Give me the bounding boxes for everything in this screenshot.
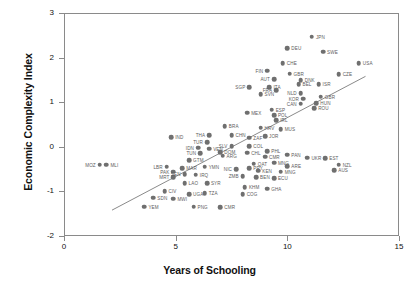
data-point-label: PHL: [271, 149, 280, 154]
data-point: [272, 176, 277, 181]
x-tick-label: 0: [52, 242, 76, 251]
data-point-label: YEM: [148, 204, 158, 209]
data-point-label: AUT: [260, 77, 270, 82]
y-tick-mark: [59, 147, 64, 148]
data-point: [202, 165, 207, 170]
data-point: [319, 95, 324, 100]
data-point-label: EST: [329, 156, 338, 161]
data-point-label: CMR: [269, 154, 280, 159]
x-tick-mark: [176, 236, 177, 241]
data-point: [312, 106, 317, 111]
data-point: [336, 72, 341, 77]
data-point: [198, 151, 203, 156]
data-point: [180, 166, 185, 171]
data-point: [220, 153, 225, 158]
data-point: [196, 145, 201, 150]
data-point-label: ARE: [291, 164, 301, 169]
data-point: [265, 149, 270, 154]
data-point-label: CAN: [287, 101, 297, 106]
data-point-label: CHL: [251, 150, 261, 155]
data-point-label: MRT: [159, 175, 169, 180]
data-point-label: UKR: [311, 155, 321, 160]
data-point-label: USA: [363, 60, 373, 65]
data-point-label: ECU: [278, 176, 288, 181]
data-point: [256, 169, 261, 174]
data-point: [321, 50, 326, 55]
data-point-label: GBR: [325, 94, 335, 99]
y-tick-mark: [59, 58, 64, 59]
data-point-label: BEL: [303, 82, 312, 87]
data-point: [245, 111, 250, 116]
data-point: [314, 101, 319, 106]
data-point-label: HRV: [265, 125, 275, 130]
data-point: [171, 196, 176, 201]
data-point: [97, 162, 102, 167]
data-point-label: JOR: [269, 134, 279, 139]
y-tick-label: 0: [30, 142, 54, 151]
data-point: [285, 164, 290, 169]
data-point-label: PAK: [160, 169, 169, 174]
y-tick-label: -1: [30, 186, 54, 195]
data-point-label: TUN: [186, 151, 196, 156]
data-point: [187, 158, 192, 163]
data-point: [191, 204, 196, 209]
data-point: [247, 136, 252, 141]
data-point: [104, 162, 109, 167]
data-point-label: CIV: [169, 189, 177, 194]
data-point: [240, 174, 245, 179]
data-point-label: MLI: [110, 162, 118, 167]
x-tick-mark: [64, 236, 65, 241]
x-tick-label: 10: [275, 242, 299, 251]
data-point: [205, 140, 210, 145]
data-point: [243, 185, 248, 190]
data-point-label: IRL: [280, 118, 287, 123]
data-point-label: GHA: [271, 186, 281, 191]
data-point-label: MEX: [251, 110, 261, 115]
data-point: [272, 161, 277, 166]
data-point-label: MUS: [285, 126, 296, 131]
data-point: [193, 173, 198, 178]
data-point: [323, 156, 328, 161]
data-point: [263, 134, 268, 139]
y-tick-label: 2: [30, 53, 54, 62]
data-point-label: PAN: [291, 152, 300, 157]
data-point: [218, 205, 223, 210]
data-point-label: ZAF: [253, 135, 262, 140]
data-point-label: ZMB: [229, 174, 239, 179]
y-tick-mark: [59, 13, 64, 14]
data-point: [285, 153, 290, 158]
data-point: [285, 46, 290, 51]
data-point-label: NZL: [343, 162, 352, 167]
data-point-label: COL: [253, 143, 263, 148]
data-point-label: SGP: [235, 85, 245, 90]
data-point: [234, 167, 239, 172]
data-point: [229, 133, 234, 138]
data-point-label: DEU: [291, 46, 301, 51]
x-tick-label: 5: [164, 242, 188, 251]
y-tick-label: -2: [30, 231, 54, 240]
data-point-label: IND: [175, 135, 183, 140]
data-point-label: MAR: [186, 166, 197, 171]
data-point-label: THA: [196, 133, 206, 138]
data-point: [182, 172, 187, 177]
data-point: [278, 127, 283, 132]
data-point: [205, 181, 210, 186]
data-point-label: ISR: [323, 82, 331, 87]
data-point-label: NIC: [224, 167, 232, 172]
data-point: [274, 118, 279, 123]
data-point: [169, 135, 174, 140]
data-point-label: TUR: [193, 140, 203, 145]
data-point-label: TZA: [209, 191, 218, 196]
data-point: [278, 169, 283, 174]
x-tick-mark: [399, 236, 400, 241]
data-point-label: AUS: [338, 167, 348, 172]
data-point-label: COG: [247, 192, 258, 197]
data-point: [265, 186, 270, 191]
data-point: [247, 85, 252, 90]
data-point-label: CZE: [343, 72, 353, 77]
data-point-label: KEN: [262, 168, 272, 173]
y-tick-mark: [59, 191, 64, 192]
data-point-label: CMR: [224, 205, 235, 210]
data-point-label: GBR: [294, 71, 304, 76]
data-point: [272, 77, 277, 82]
